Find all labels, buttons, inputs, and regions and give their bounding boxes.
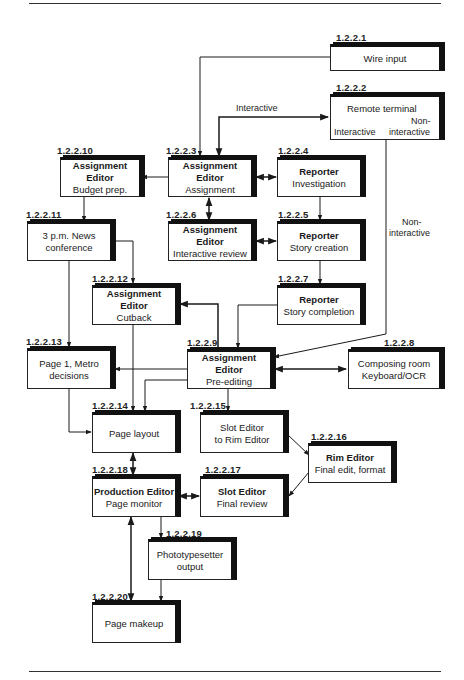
node-title: Rim Editor bbox=[326, 452, 374, 464]
node-id-1-2-2-4: 1.2.2.4 bbox=[278, 145, 308, 156]
node-id-1-2-2-8: 1.2.2.8 bbox=[384, 337, 414, 348]
node-title: Production Editor bbox=[94, 486, 174, 498]
node-wire-input[interactable]: Wire input bbox=[330, 44, 442, 71]
node-composing-room[interactable]: Composing room Keyboard/OCR bbox=[348, 349, 442, 389]
node-title: Assignment Editor bbox=[169, 224, 251, 248]
edge-label-non-interactive-1: Non- bbox=[402, 217, 422, 228]
node-id-1-2-2-17: 1.2.2.17 bbox=[205, 464, 241, 475]
node-text: Page makeup bbox=[105, 618, 164, 630]
node-subtitle: Page monitor bbox=[106, 498, 163, 510]
node-line-1: Slot Editor bbox=[220, 422, 264, 434]
node-subtitle: Story creation bbox=[290, 242, 349, 254]
node-rim-editor-final-edit[interactable]: Rim Editor Final edit, format bbox=[308, 443, 394, 483]
node-title: Assignment Editor bbox=[169, 160, 251, 184]
node-page1-metro-decisions[interactable]: Page 1, Metro decisions bbox=[27, 348, 113, 389]
node-assignment-editor-interactive-review[interactable]: Assignment Editor Interactive review bbox=[168, 221, 254, 261]
node-id-1-2-2-3: 1.2.2.3 bbox=[166, 145, 196, 156]
node-id-1-2-2-9: 1.2.2.9 bbox=[187, 337, 217, 348]
node-line-2: decisions bbox=[49, 370, 89, 382]
remote-interactive-label: Interactive bbox=[334, 127, 376, 137]
node-title: Reporter bbox=[299, 230, 339, 242]
node-title: Assignment Editor bbox=[188, 352, 270, 376]
node-id-1-2-2-7: 1.2.2.7 bbox=[278, 273, 308, 284]
remote-noninteractive-label: interactive bbox=[389, 127, 430, 137]
node-subtitle: Interactive review bbox=[173, 248, 247, 260]
node-subtitle: Cutback bbox=[117, 312, 152, 324]
node-subtitle: Story completion bbox=[284, 306, 355, 318]
node-production-editor-page-monitor[interactable]: Production Editor Page monitor bbox=[92, 476, 178, 517]
remote-non-label: Non- bbox=[411, 116, 431, 126]
node-text: Wire input bbox=[364, 53, 407, 65]
node-id-1-2-2-19: 1.2.2.19 bbox=[166, 528, 202, 539]
node-page-makeup[interactable]: Page makeup bbox=[92, 602, 178, 643]
node-id-1-2-2-6: 1.2.2.6 bbox=[166, 209, 196, 220]
node-slot-editor-to-rim[interactable]: Slot Editor to Rim Editor bbox=[200, 412, 286, 453]
edge-label-non-interactive-2: interactive bbox=[389, 228, 430, 239]
node-text: Remote terminal bbox=[347, 103, 417, 115]
node-id-1-2-2-14: 1.2.2.14 bbox=[92, 400, 128, 411]
node-title: Slot Editor bbox=[218, 486, 266, 498]
node-reporter-story-creation[interactable]: Reporter Story creation bbox=[277, 221, 363, 261]
node-reporter-story-completion[interactable]: Reporter Story completion bbox=[277, 285, 363, 325]
node-id-1-2-2-15: 1.2.2.15 bbox=[190, 400, 226, 411]
node-line-2: conference bbox=[45, 242, 92, 254]
node-id-1-2-2-13: 1.2.2.13 bbox=[26, 336, 62, 347]
node-slot-editor-final-review[interactable]: Slot Editor Final review bbox=[200, 476, 286, 517]
node-id-1-2-2-11: 1.2.2.11 bbox=[26, 209, 61, 220]
node-subtitle: Budget prep. bbox=[73, 184, 127, 196]
node-assignment-editor-budget-prep[interactable]: Assignment Editor Budget prep. bbox=[60, 157, 142, 197]
node-reporter-investigation[interactable]: Reporter Investigation bbox=[277, 157, 363, 197]
node-text: Page layout bbox=[109, 428, 159, 440]
node-title: Assignment Editor bbox=[61, 160, 139, 184]
node-title: Reporter bbox=[299, 166, 339, 178]
edge-label-interactive: Interactive bbox=[236, 103, 278, 114]
node-news-conference[interactable]: 3 p.m. News conference bbox=[27, 221, 113, 261]
node-remote-terminal[interactable]: Remote terminal Non- Interactive interac… bbox=[330, 94, 442, 140]
node-id-1-2-2-10: 1.2.2.10 bbox=[57, 145, 93, 156]
node-assignment-editor-cutback[interactable]: Assignment Editor Cutback bbox=[92, 285, 178, 325]
node-line-2: to Rim Editor bbox=[215, 434, 270, 446]
node-phototypesetter-output[interactable]: Phototypesetter output bbox=[148, 539, 234, 580]
node-line-1: Composing room bbox=[358, 358, 430, 370]
node-id-1-2-2-20: 1.2.2.20 bbox=[92, 591, 128, 602]
node-id-1-2-2-12: 1.2.2.12 bbox=[92, 273, 128, 284]
node-subtitle: Final review bbox=[217, 498, 268, 510]
node-assignment-editor-pre-editing[interactable]: Assignment Editor Pre-editing bbox=[187, 349, 273, 389]
node-subtitle: Investigation bbox=[292, 178, 345, 190]
node-id-1-2-2-16: 1.2.2.16 bbox=[311, 431, 347, 442]
node-line-2: Keyboard/OCR bbox=[362, 370, 426, 382]
node-title: Assignment Editor bbox=[93, 288, 175, 312]
node-id-1-2-2-18: 1.2.2.18 bbox=[92, 464, 128, 475]
node-title: Reporter bbox=[299, 294, 339, 306]
node-id-1-2-2-1: 1.2.2.1 bbox=[336, 32, 366, 43]
node-subtitle: Final edit, format bbox=[315, 464, 386, 476]
node-line-1: Phototypesetter bbox=[157, 549, 224, 561]
node-assignment-editor-assignment[interactable]: Assignment Editor Assignment bbox=[168, 157, 254, 197]
node-line-1: Page 1, Metro bbox=[39, 358, 99, 370]
node-subtitle: Assignment bbox=[185, 184, 235, 196]
node-page-layout[interactable]: Page layout bbox=[92, 412, 178, 453]
node-line-1: 3 p.m. News bbox=[43, 230, 96, 242]
node-line-2: output bbox=[177, 561, 203, 573]
node-id-1-2-2-5: 1.2.2.5 bbox=[278, 209, 308, 220]
node-id-1-2-2-2: 1.2.2.2 bbox=[336, 82, 366, 93]
node-subtitle: Pre-editing bbox=[206, 376, 252, 388]
